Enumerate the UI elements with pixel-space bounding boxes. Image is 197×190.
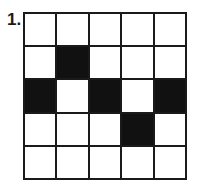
grid-cell-empty [57,147,87,178]
grid-cell-filled [25,80,55,111]
grid-cell-empty [25,147,55,178]
grid-cell-empty [57,14,87,45]
grid-cell-empty [122,47,152,78]
grid-cell-empty [122,80,152,111]
grid-cell-filled [155,80,185,111]
puzzle-number-label: 1. [7,10,21,30]
pattern-grid [23,12,187,180]
grid-cell-filled [57,47,87,78]
grid-cell-empty [122,147,152,178]
grid-cell-empty [57,114,87,145]
grid-cell-empty [155,114,185,145]
grid-cell-empty [155,147,185,178]
grid-cell-empty [57,80,87,111]
grid-cell-empty [90,147,120,178]
grid-cell-empty [90,47,120,78]
grid-cell-filled [90,80,120,111]
grid-cell-empty [25,114,55,145]
grid-cell-empty [25,47,55,78]
grid-cell-empty [122,14,152,45]
grid-cell-empty [90,114,120,145]
grid-cell-empty [90,14,120,45]
grid-cell-filled [122,114,152,145]
grid-cell-empty [155,14,185,45]
grid-cell-empty [155,47,185,78]
grid-cell-empty [25,14,55,45]
